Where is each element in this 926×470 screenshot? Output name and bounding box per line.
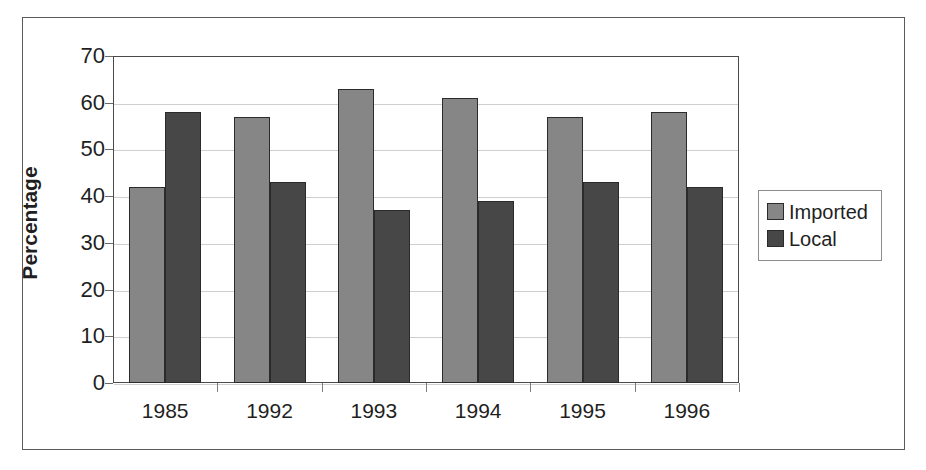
bar-local-1993 — [374, 210, 410, 383]
y-axis-tick-mark — [105, 383, 113, 384]
bar-imported-1996 — [651, 112, 687, 383]
legend-label-imported: Imported — [789, 202, 868, 222]
x-axis-tick-label: 1996 — [635, 398, 739, 424]
y-axis-tick-label: 10 — [47, 325, 105, 347]
bar-local-1985 — [165, 112, 201, 383]
bar-local-1995 — [583, 182, 619, 383]
y-axis-tick-mark — [105, 196, 113, 197]
legend-swatch-icon-local — [767, 230, 784, 247]
x-axis-tick-label: 1992 — [218, 398, 322, 424]
x-axis-tick-labels: 198519921993199419951996 — [113, 398, 739, 428]
bar-imported-1994 — [442, 98, 478, 383]
y-axis-tick-labels: 706050403020100 — [39, 56, 105, 383]
y-axis-tick-label: 0 — [47, 372, 105, 394]
y-axis-tick-label: 20 — [47, 279, 105, 301]
y-axis-tick-label: 50 — [47, 138, 105, 160]
figure-frame: Percentage 706050403020100 1985199219931… — [22, 17, 905, 450]
chart-legend: Imported Local — [758, 190, 882, 261]
legend-item-local[interactable]: Local — [767, 225, 873, 252]
y-axis-tick-label: 30 — [47, 232, 105, 254]
bar-local-1994 — [478, 201, 514, 383]
bar-chart: Percentage 706050403020100 1985199219931… — [23, 18, 906, 451]
y-axis-tick-label: 70 — [47, 45, 105, 67]
legend-label-local: Local — [789, 229, 837, 249]
x-axis-tick-mark — [635, 383, 636, 392]
y-axis-tick-label: 60 — [47, 92, 105, 114]
x-axis-tick-mark — [322, 383, 323, 392]
x-axis-tick-label: 1995 — [531, 398, 635, 424]
legend-swatch-icon-imported — [767, 203, 784, 220]
bar-local-1996 — [687, 187, 723, 383]
x-axis-tick-label: 1994 — [426, 398, 530, 424]
y-axis-tick-mark — [105, 103, 113, 104]
x-axis-tick-mark — [530, 383, 531, 392]
x-axis-tick-mark — [426, 383, 427, 392]
legend-item-imported[interactable]: Imported — [767, 198, 873, 225]
y-axis-tick-label: 40 — [47, 185, 105, 207]
y-axis-tick-mark — [105, 290, 113, 291]
x-axis-tick-label: 1985 — [113, 398, 217, 424]
bars-layer — [113, 56, 739, 383]
bar-imported-1992 — [234, 117, 270, 383]
bar-imported-1985 — [129, 187, 165, 383]
bar-imported-1995 — [547, 117, 583, 383]
y-axis-tick-mark — [105, 56, 113, 57]
y-axis-tick-mark — [105, 243, 113, 244]
y-axis-tick-mark — [105, 336, 113, 337]
x-axis-tick-marks — [113, 383, 739, 393]
bar-local-1992 — [270, 182, 306, 383]
x-axis-tick-mark — [739, 383, 740, 392]
x-axis-tick-label: 1993 — [322, 398, 426, 424]
bar-imported-1993 — [338, 89, 374, 383]
x-axis-tick-mark — [217, 383, 218, 392]
y-axis-tick-mark — [105, 149, 113, 150]
